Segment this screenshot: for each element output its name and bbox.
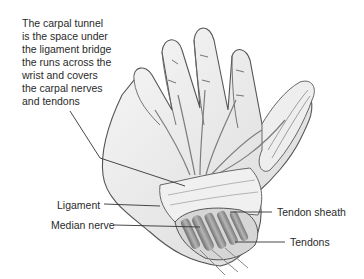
label-ligament: Ligament — [57, 199, 100, 211]
label-tendon-sheath: Tendon sheath — [277, 206, 346, 218]
carpal-tunnel-diagram: The carpal tunnel is the space under the… — [0, 0, 364, 279]
label-median-nerve: Median nerve — [51, 219, 115, 231]
label-tendons: Tendons — [290, 236, 330, 248]
carpal-tunnel-caption: The carpal tunnel is the space under the… — [22, 17, 132, 108]
